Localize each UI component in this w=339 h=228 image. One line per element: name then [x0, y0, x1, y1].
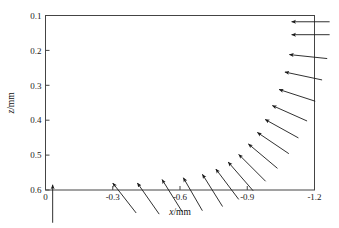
plot-border	[46, 16, 315, 191]
y-tick-label: 0.5	[30, 150, 42, 160]
x-tick-label: -1.2	[307, 192, 321, 202]
vector-arrow	[265, 120, 298, 138]
y-tick-label: 0.4	[30, 115, 42, 125]
y-axis-title: z/mm	[6, 92, 16, 115]
quiver-plot: 0-0.3-0.6-0.9-1.2 0.10.20.30.40.50.6 x/m…	[0, 0, 339, 228]
y-tick-label: 0.1	[30, 11, 41, 21]
vector-arrow	[285, 72, 322, 80]
vector-arrow	[239, 154, 266, 181]
x-axis-tick-labels: 0-0.3-0.6-0.9-1.2	[43, 192, 321, 202]
y-tick-label: 0.3	[30, 81, 42, 91]
x-tick-label: -0.3	[106, 192, 121, 202]
x-axis-ticks	[46, 186, 315, 190]
y-axis-ticks	[46, 16, 50, 191]
y-tick-label: 0.6	[30, 185, 42, 195]
vector-arrows	[53, 22, 330, 223]
x-tick-label: 0	[43, 192, 48, 202]
vector-arrow	[137, 183, 159, 214]
vector-arrow	[279, 89, 315, 101]
chart-figure: 0-0.3-0.6-0.9-1.2 0.10.20.30.40.50.6 x/m…	[0, 0, 339, 228]
x-tick-label: -0.9	[240, 192, 255, 202]
x-axis-title: x/mm	[168, 207, 191, 217]
y-axis-tick-labels: 0.10.20.30.40.50.6	[30, 11, 42, 196]
vector-arrow	[228, 162, 253, 191]
plot-frame	[46, 16, 315, 191]
vector-arrow	[248, 144, 277, 168]
vector-arrow	[216, 169, 239, 199]
vector-arrow	[272, 106, 307, 121]
y-tick-label: 0.2	[30, 46, 41, 56]
vector-arrow	[257, 132, 289, 153]
vector-arrow	[289, 55, 327, 59]
